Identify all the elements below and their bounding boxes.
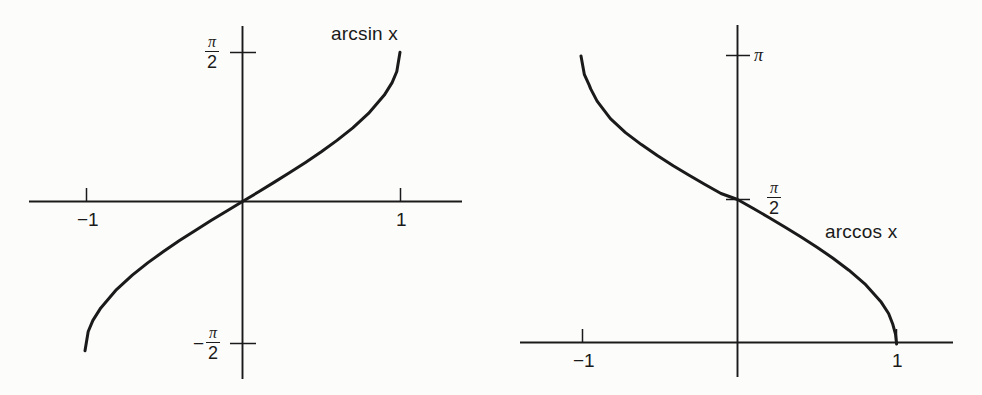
arccos-curve-label: arccos x — [825, 222, 897, 241]
arcsin-plot-graphics — [0, 0, 491, 395]
arcsin-curve-label: arcsin x — [331, 24, 398, 43]
arccos-plot-graphics — [491, 0, 982, 395]
arcsin-xtick-label-pos1: 1 — [396, 210, 407, 229]
arcsin-xtick-label-neg1: −1 — [77, 210, 99, 229]
arccos-xtick-label-pos1: 1 — [892, 351, 903, 370]
arcsin-ytick-label-neg-pi-over-2: − π 2 — [193, 325, 220, 362]
fraction-denominator: 2 — [205, 53, 219, 71]
arcsin-ytick-label-pi-over-2: π 2 — [205, 34, 219, 71]
arccos-xtick-label-neg1: −1 — [573, 351, 595, 370]
arcsin-plot-panel: arcsin x −1 1 π 2 − π 2 — [0, 0, 491, 395]
fraction-numerator: π — [205, 34, 219, 51]
arccos-ytick-label-pi-over-2: π 2 — [767, 180, 781, 217]
arccos-plot-panel: arccos x −1 1 π π 2 — [491, 0, 982, 395]
arccos-curve — [581, 56, 897, 344]
fraction-denominator: 2 — [767, 199, 781, 217]
arccos-xtick-label-pos1-text: 1 — [892, 350, 903, 371]
fraction-numerator: π — [206, 325, 220, 342]
fraction-pi-over-2: π 2 — [206, 325, 220, 362]
arccos-ytick-label-pi: π — [754, 46, 763, 64]
fraction-denominator: 2 — [206, 344, 220, 362]
minus-sign: − — [193, 334, 204, 353]
inverse-trig-functions-figure: arcsin x −1 1 π 2 − π 2 — [0, 0, 982, 395]
arcsin-xtick-label-pos1-text: 1 — [396, 209, 407, 230]
fraction-pi-over-2: π 2 — [205, 34, 219, 71]
fraction-pi-over-2: π 2 — [767, 180, 781, 217]
fraction-numerator: π — [767, 180, 781, 197]
